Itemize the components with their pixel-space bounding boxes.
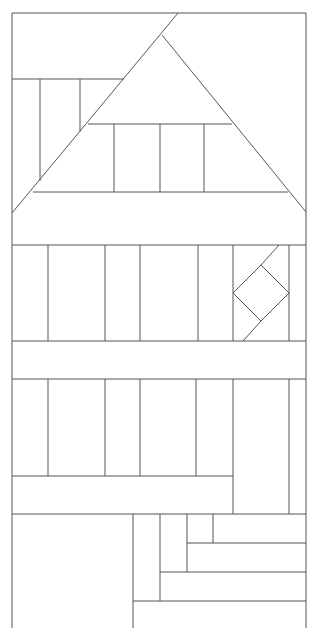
diamond-upper-tail — [261, 245, 279, 265]
diamond-bottom-left — [233, 293, 261, 321]
roof-left-diagonal — [12, 13, 178, 213]
diamond-bottom-right — [261, 293, 289, 321]
house-quilt-diagram — [0, 0, 309, 628]
pattern-lines — [12, 13, 306, 628]
diamond-lower-tail — [243, 321, 261, 341]
diamond-top-right — [261, 265, 289, 293]
diamond-top-left — [233, 265, 261, 293]
